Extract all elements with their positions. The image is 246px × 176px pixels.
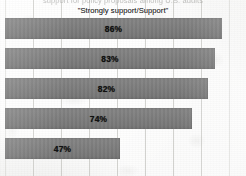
bar-value-label: 83% [101, 54, 118, 64]
bar: 74% [5, 108, 192, 129]
bar-row: 82% [5, 78, 208, 99]
bar-series: 86% 83% 82% 74% 47% [0, 18, 246, 176]
bar-row: 86% [5, 18, 222, 39]
bar-value-label: 74% [90, 114, 107, 124]
bar-row: 83% [5, 48, 215, 69]
bar-row: 74% [5, 108, 192, 129]
bar-row: 47% [5, 138, 120, 159]
bar-value-label: 47% [54, 144, 71, 154]
chart-subtitle: "Strongly support/Support" [0, 6, 246, 15]
chart-container: support for policy proposals among U.S. … [0, 0, 246, 176]
bar: 82% [5, 78, 208, 99]
bar: 83% [5, 48, 215, 69]
bar: 47% [5, 138, 120, 159]
bar-value-label: 82% [98, 84, 115, 94]
bar-value-label: 86% [105, 24, 122, 34]
bar: 86% [5, 18, 222, 39]
chart-title-cropped: support for policy proposals among U.S. … [0, 0, 246, 5]
